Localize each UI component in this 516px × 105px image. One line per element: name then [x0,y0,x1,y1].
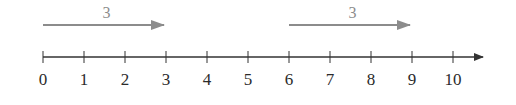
tick-label: 7 [326,70,335,89]
tick-label: 6 [285,70,294,89]
number-line-diagram: 012345678910 33 [0,0,516,105]
tick-label: 3 [162,70,171,89]
tick-label: 10 [445,70,462,89]
tick-label: 4 [203,70,212,89]
tick-label: 1 [80,70,89,89]
tick-label: 8 [367,70,376,89]
tick-label: 5 [244,70,253,89]
tick-label: 0 [39,70,48,89]
jump-arrows: 33 [43,4,410,25]
tick-label: 9 [408,70,417,89]
number-line-svg: 012345678910 33 [0,0,516,105]
jump-label: 3 [349,4,357,21]
jump-label: 3 [103,4,111,21]
tick-label: 2 [121,70,130,89]
